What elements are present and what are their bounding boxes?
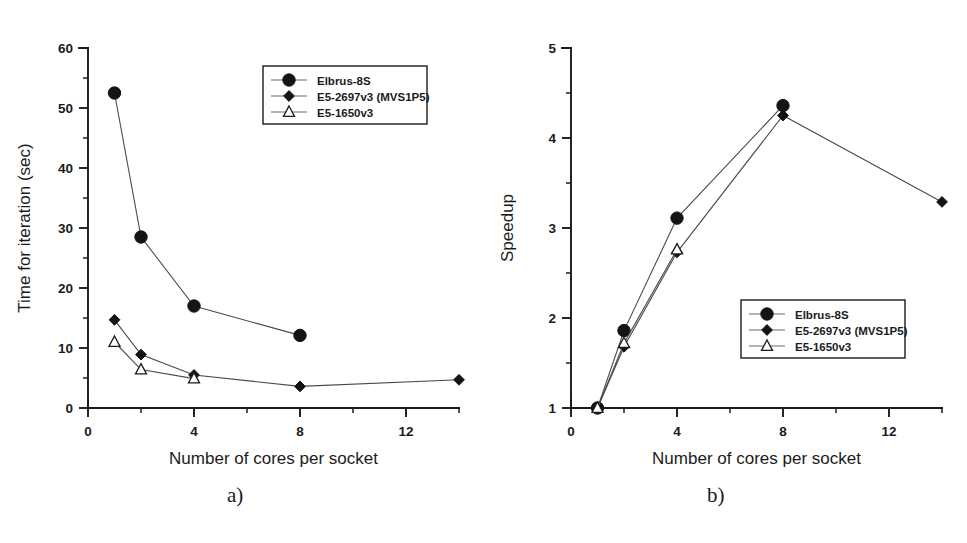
x-axis-ticks: 04812 [84,399,459,439]
x-tick-label-4: 4 [190,424,198,439]
marker-diamond-1-4 [937,197,948,208]
y-tick-label-30: 30 [58,221,73,236]
marker-diamond-1-1 [136,349,147,360]
marker-circle-0-2 [671,212,683,224]
chart-legend: Elbrus-8SE5-2697v3 (MVS1P5)E5-1650v3 [741,300,908,358]
series-line-1 [115,320,460,387]
y-axis-title: Time for iteration (sec) [15,143,34,312]
marker-triangle-2-2 [671,244,682,254]
series-diamond [592,110,947,413]
x-tick-label-8: 8 [779,424,787,439]
panel-b-caption: b) [707,483,725,508]
legend-label-elbrus: Elbrus-8S [795,309,849,321]
x-tick-label-12: 12 [881,424,896,439]
marker-diamond-1-3 [295,381,306,392]
series-circle [108,87,306,342]
y-tick-label-5: 5 [548,41,556,56]
y-tick-label-2: 2 [548,311,556,326]
chart-panel-a: 010203040506004812Number of cores per so… [0,0,484,543]
marker-circle-0-1 [135,231,147,243]
marker-circle-legend-0 [761,308,773,320]
chart-legend: Elbrus-8SE5-2697v3 (MVS1P5)E5-1650v3 [263,66,430,124]
legend-label-e5_1650: E5-1650v3 [795,341,851,353]
x-axis-title: Number of cores per socket [169,449,378,468]
y-tick-label-0: 0 [65,401,73,416]
series-line-1 [598,116,943,409]
legend-label-e5_2697: E5-2697v3 (MVS1P5) [795,325,908,337]
x-tick-label-8: 8 [296,424,304,439]
series-line-0 [115,93,301,335]
x-tick-label-0: 0 [84,424,92,439]
x-tick-label-4: 4 [673,424,681,439]
y-tick-label-50: 50 [58,101,73,116]
x-axis-title: Number of cores per socket [652,449,861,468]
marker-circle-0-0 [108,87,120,99]
x-tick-label-12: 12 [398,424,413,439]
marker-circle-0-2 [188,300,200,312]
chart-a-canvas: 010203040506004812Number of cores per so… [0,0,484,470]
marker-diamond-1-3 [778,110,789,121]
series-triangle [592,244,683,413]
x-tick-label-0: 0 [567,424,575,439]
panel-a-caption: a) [227,483,243,508]
chart-b-canvas: 1234504812Number of cores per socketSpee… [483,0,967,470]
legend-label-e5_2697: E5-2697v3 (MVS1P5) [317,91,430,103]
y-axis-ticks: 12345 [548,41,571,416]
y-axis-title: Speedup [498,194,517,262]
x-axis-ticks: 04812 [567,399,942,439]
series-line-2 [115,342,195,379]
legend-label-e5_1650: E5-1650v3 [317,107,373,119]
marker-circle-legend-0 [283,74,295,86]
y-tick-label-10: 10 [58,341,73,356]
legend-label-elbrus: Elbrus-8S [317,75,371,87]
y-tick-label-1: 1 [548,401,556,416]
marker-diamond-1-0 [109,314,120,325]
y-axis-ticks: 0102030405060 [58,41,88,416]
y-tick-label-4: 4 [548,131,556,146]
y-tick-label-40: 40 [58,161,73,176]
marker-triangle-2-0 [109,336,120,346]
y-tick-label-60: 60 [58,41,73,56]
chart-panel-b: 1234504812Number of cores per socketSpee… [483,0,967,543]
marker-circle-0-3 [294,329,306,341]
y-tick-label-3: 3 [548,221,556,236]
marker-diamond-1-4 [454,374,465,385]
figure-two-panel-chart: 010203040506004812Number of cores per so… [0,0,967,543]
series-diamond [109,314,464,391]
y-tick-label-20: 20 [58,281,73,296]
